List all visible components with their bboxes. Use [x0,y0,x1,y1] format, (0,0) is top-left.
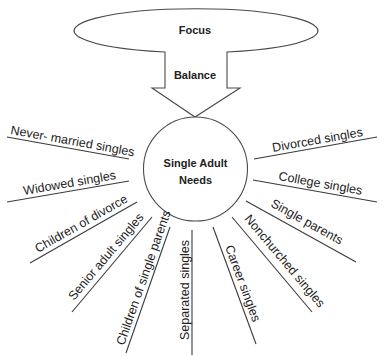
center-label-line2: Needs [179,174,212,186]
center-circle [144,117,248,221]
focus-balance-shape: Focus Balance [74,9,318,117]
single-adult-needs-diagram: Focus Balance Single Adult Needs Never- … [0,0,384,356]
balance-label: Balance [174,69,216,81]
focus-label: Focus [179,24,211,36]
spoke-label-career: Career singles [222,243,263,323]
center-circle-group: Single Adult Needs [144,117,248,221]
spoke-label-separated: Separated singles [178,240,192,340]
spoke-label-college: College singles [277,169,363,198]
spoke-label-divorced: Divorced singles [271,125,364,155]
spoke-label-single-parents: Single parents [269,196,346,247]
spoke-label-widowed: Widowed singles [22,168,117,198]
center-label-line1: Single Adult [164,157,228,169]
